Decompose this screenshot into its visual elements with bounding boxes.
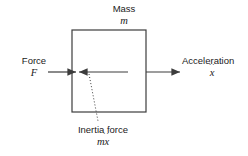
free-body-diagram: Mass m Force F Acceleration x·· Inertia … bbox=[0, 0, 248, 156]
mass-symbol-text: m bbox=[120, 15, 128, 26]
inertia-force-symbol: mx·· bbox=[48, 136, 158, 147]
acceleration-symbol-text: x·· bbox=[210, 67, 215, 78]
acceleration-symbol-base: x bbox=[210, 67, 215, 78]
acceleration-label-group: Acceleration x·· bbox=[182, 55, 246, 78]
mass-label: Mass bbox=[0, 3, 248, 14]
mass-label-group: Mass m bbox=[0, 3, 248, 26]
force-symbol-text: F bbox=[31, 67, 37, 78]
acceleration-symbol: x·· bbox=[182, 67, 242, 78]
force-label-group: Force F bbox=[6, 55, 62, 78]
inertia-force-symbol-base: mx bbox=[97, 136, 109, 147]
inertia-force-symbol-overdots: ·· bbox=[103, 132, 109, 136]
mass-symbol: m bbox=[0, 15, 248, 26]
inertia-force-symbol-text: mx·· bbox=[97, 136, 109, 147]
acceleration-symbol-overdots: ·· bbox=[209, 63, 215, 67]
mass-box bbox=[72, 30, 146, 112]
inertia-leader-line bbox=[89, 74, 98, 121]
force-symbol: F bbox=[6, 67, 62, 78]
inertia-force-label-group: Inertia force mx·· bbox=[48, 124, 158, 147]
force-label: Force bbox=[6, 55, 62, 66]
